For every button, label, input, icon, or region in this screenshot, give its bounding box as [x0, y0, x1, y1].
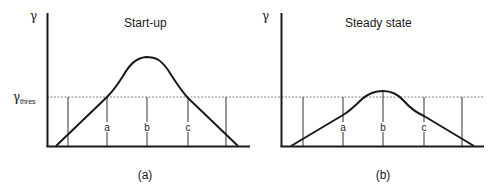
marker-label-a: a — [340, 122, 346, 133]
panel-caption: (b) — [376, 168, 391, 182]
panel-title: Start-up — [124, 16, 167, 30]
gamma-curve-steady-state — [291, 91, 474, 146]
marker-label-b: b — [144, 122, 150, 133]
panel-steady-state: γ a b c Steady state (b) — [262, 9, 484, 182]
gamma-distribution-diagram: γ γ thres a b c Start-up (a) γ — [0, 0, 495, 189]
threshold-label: γ thres — [13, 90, 36, 105]
panel-start-up: γ γ thres a b c Start-up (a) — [13, 9, 250, 182]
panel-title: Steady state — [345, 16, 412, 30]
marker-label-c: c — [422, 122, 427, 133]
svg-text:thres: thres — [20, 98, 36, 105]
marker-label-a: a — [104, 122, 110, 133]
panel-caption: (a) — [138, 168, 153, 182]
marker-label-b: b — [380, 122, 386, 133]
y-axis-label: γ — [262, 9, 269, 23]
marker-label-c: c — [186, 122, 191, 133]
y-axis-label: γ — [30, 9, 37, 23]
